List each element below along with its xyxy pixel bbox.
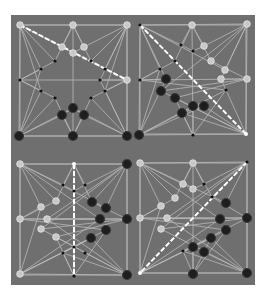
dark-piece[interactable]	[189, 270, 198, 279]
light-piece[interactable]	[38, 204, 45, 211]
light-piece[interactable]	[244, 76, 251, 83]
light-piece[interactable]	[180, 181, 187, 188]
empty-point[interactable]	[202, 182, 205, 185]
dark-piece[interactable]	[58, 111, 67, 120]
empty-point[interactable]	[191, 133, 194, 136]
light-piece[interactable]	[190, 160, 197, 167]
dark-piece[interactable]	[243, 214, 252, 223]
empty-point[interactable]	[61, 183, 64, 186]
dark-piece[interactable]	[243, 269, 252, 278]
dark-piece[interactable]	[69, 132, 78, 141]
dark-piece[interactable]	[157, 87, 166, 96]
dark-piece[interactable]	[102, 226, 111, 235]
light-piece[interactable]	[164, 215, 171, 222]
empty-point[interactable]	[98, 78, 101, 81]
dark-piece[interactable]	[207, 234, 216, 243]
light-piece[interactable]	[17, 22, 24, 29]
light-piece[interactable]	[158, 203, 165, 210]
light-piece[interactable]	[208, 58, 215, 65]
dark-piece[interactable]	[15, 132, 24, 141]
empty-point[interactable]	[53, 59, 56, 62]
light-piece[interactable]	[70, 50, 77, 57]
light-piece[interactable]	[53, 234, 60, 241]
light-piece[interactable]	[222, 67, 229, 74]
empty-point[interactable]	[18, 78, 21, 81]
empty-point[interactable]	[138, 271, 142, 275]
dark-piece[interactable]	[135, 131, 144, 140]
light-piece[interactable]	[17, 271, 24, 278]
empty-point[interactable]	[158, 67, 161, 70]
empty-point[interactable]	[224, 88, 227, 91]
dark-piece[interactable]	[162, 75, 171, 84]
light-piece[interactable]	[38, 226, 45, 233]
light-piece[interactable]	[17, 161, 24, 168]
empty-point[interactable]	[39, 89, 42, 92]
light-piece[interactable]	[81, 44, 88, 51]
dark-piece[interactable]	[200, 102, 209, 111]
board-edge	[91, 98, 127, 136]
light-piece[interactable]	[137, 160, 144, 167]
empty-point[interactable]	[244, 132, 248, 136]
empty-point[interactable]	[138, 78, 141, 81]
empty-point[interactable]	[103, 67, 106, 70]
dark-piece[interactable]	[80, 111, 89, 120]
empty-point[interactable]	[138, 23, 141, 26]
light-piece[interactable]	[70, 22, 77, 29]
light-piece[interactable]	[59, 44, 66, 51]
dark-piece[interactable]	[96, 215, 105, 224]
empty-point[interactable]	[61, 251, 64, 254]
empty-point[interactable]	[173, 59, 176, 62]
empty-point[interactable]	[83, 251, 86, 254]
dark-piece[interactable]	[171, 94, 180, 103]
empty-point[interactable]	[72, 245, 75, 248]
dark-piece[interactable]	[222, 199, 231, 208]
light-piece[interactable]	[201, 43, 208, 50]
empty-point[interactable]	[103, 89, 106, 92]
board-edge	[140, 163, 161, 206]
dark-piece[interactable]	[87, 234, 96, 243]
empty-point[interactable]	[53, 96, 56, 99]
empty-point[interactable]	[39, 67, 42, 70]
dark-piece[interactable]	[123, 132, 132, 141]
board-graph	[11, 15, 133, 150]
dark-piece[interactable]	[222, 226, 231, 235]
light-piece[interactable]	[244, 21, 251, 28]
light-piece[interactable]	[172, 195, 179, 202]
empty-point[interactable]	[72, 162, 76, 166]
light-piece[interactable]	[137, 215, 144, 222]
dark-piece[interactable]	[178, 109, 187, 118]
empty-point[interactable]	[83, 183, 86, 186]
light-piece[interactable]	[17, 216, 24, 223]
dark-piece[interactable]	[123, 160, 132, 169]
dark-piece[interactable]	[123, 271, 132, 280]
board-edge	[140, 163, 220, 219]
dark-piece[interactable]	[216, 215, 225, 224]
light-piece[interactable]	[53, 198, 60, 205]
empty-point[interactable]	[179, 43, 182, 46]
dark-piece[interactable]	[102, 204, 111, 213]
light-piece[interactable]	[44, 216, 51, 223]
light-piece[interactable]	[124, 77, 131, 84]
light-piece[interactable]	[158, 226, 165, 233]
light-piece[interactable]	[190, 186, 197, 193]
empty-point[interactable]	[210, 195, 213, 198]
empty-point[interactable]	[89, 59, 92, 62]
dark-piece[interactable]	[189, 243, 198, 252]
empty-point[interactable]	[72, 189, 75, 192]
empty-point[interactable]	[89, 96, 92, 99]
board-edge	[20, 61, 55, 80]
dark-piece[interactable]	[200, 248, 209, 257]
dark-piece[interactable]	[69, 104, 78, 113]
light-piece[interactable]	[124, 22, 131, 29]
light-piece[interactable]	[189, 22, 196, 29]
empty-point[interactable]	[181, 249, 184, 252]
empty-point[interactable]	[72, 274, 75, 277]
dark-piece[interactable]	[189, 102, 198, 111]
board-edge	[140, 80, 226, 90]
empty-point[interactable]	[245, 160, 248, 163]
board-graph	[133, 150, 255, 285]
dark-piece[interactable]	[123, 215, 132, 224]
empty-point[interactable]	[191, 49, 194, 52]
dark-piece[interactable]	[88, 198, 97, 207]
light-piece[interactable]	[218, 76, 225, 83]
